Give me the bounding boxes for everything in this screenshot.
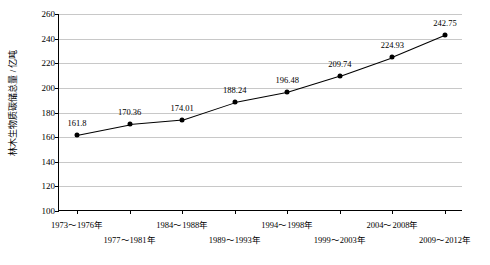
x-axis-tick-label: 1977～1981年 (104, 233, 156, 245)
x-axis-tick-mark (287, 210, 288, 214)
x-axis-tick-label: 1989～1993年 (209, 233, 261, 245)
y-axis-tick-mark (55, 186, 59, 187)
y-axis-tick-mark (55, 39, 59, 40)
gridline (59, 137, 462, 138)
y-axis-tick-mark (55, 88, 59, 89)
data-point (127, 122, 132, 127)
x-axis-tick-mark (182, 210, 183, 214)
y-axis-tick-mark (55, 63, 59, 64)
data-point (390, 55, 395, 60)
x-axis-tick-mark (77, 210, 78, 214)
y-axis-tick-mark (55, 137, 59, 138)
data-point-label: 224.93 (381, 40, 404, 50)
gridline (59, 88, 462, 89)
gridline (59, 63, 462, 64)
plot-area: 1001201401601802002202402601973～1976年197… (58, 14, 462, 211)
x-axis-tick-label: 1984～1988年 (156, 218, 208, 230)
x-axis-tick-mark (392, 210, 393, 214)
chart-container: 林木生物质碳储总量 / 亿吨 1001201401601802002202402… (0, 0, 490, 265)
y-axis-tick-mark (55, 14, 59, 15)
data-point-label: 170.36 (118, 107, 141, 117)
data-point-label: 188.24 (223, 85, 246, 95)
line-segment (130, 120, 183, 126)
data-point (337, 73, 342, 78)
gridline (59, 14, 462, 15)
data-point (443, 33, 448, 38)
y-axis-tick-mark (55, 162, 59, 163)
data-point (232, 100, 237, 105)
data-point (180, 117, 185, 122)
x-axis-tick-mark (445, 210, 446, 214)
y-axis-tick-mark (55, 211, 59, 212)
data-point-label: 242.75 (433, 18, 456, 28)
data-point-label: 209.74 (328, 59, 351, 69)
x-axis-tick-mark (235, 210, 236, 214)
y-axis-tick-mark (55, 113, 59, 114)
data-point-label: 174.01 (170, 103, 193, 113)
gridline (59, 162, 462, 163)
x-axis-tick-label: 1973～1976年 (51, 218, 103, 230)
x-axis-tick-label: 1994～1998年 (261, 218, 313, 230)
gridline (59, 186, 462, 187)
y-axis-title: 林木生物质碳储总量 / 亿吨 (6, 0, 22, 235)
x-axis-tick-mark (130, 210, 131, 214)
data-point (285, 90, 290, 95)
x-axis-tick-label: 2009～2012年 (419, 233, 471, 245)
x-axis-tick-label: 1999～2003年 (314, 233, 366, 245)
x-axis-tick-mark (340, 210, 341, 214)
data-point-label: 196.48 (276, 75, 299, 85)
data-point-label: 161.8 (67, 118, 86, 128)
x-axis-tick-label: 2004～2008年 (366, 218, 418, 230)
data-point (75, 132, 80, 137)
